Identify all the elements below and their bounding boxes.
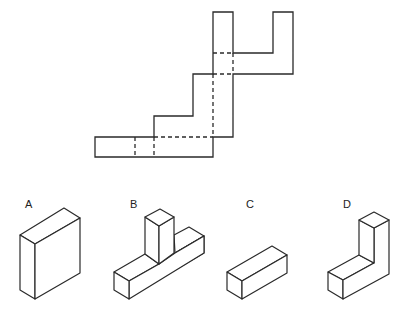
option-a[interactable]: A	[20, 198, 80, 299]
option-d[interactable]: D	[328, 198, 389, 299]
net-pattern	[95, 12, 293, 157]
left-face	[20, 235, 35, 299]
option-label: B	[130, 198, 137, 210]
net-outline	[95, 12, 293, 157]
option-b[interactable]: B	[114, 198, 204, 299]
option-label: C	[246, 198, 254, 210]
option-label: D	[343, 198, 351, 210]
option-c[interactable]: C	[227, 198, 287, 299]
option-label: A	[25, 198, 33, 210]
